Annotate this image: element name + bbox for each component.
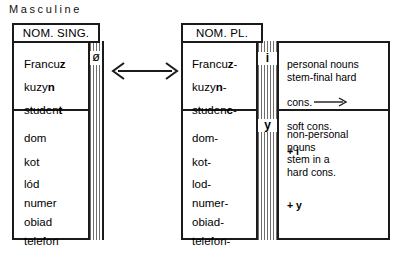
list-item: dom- (192, 133, 218, 145)
list-item: kuzyn (24, 82, 55, 94)
hard-to-soft-rule: cons. (287, 96, 390, 108)
bold-final-letter: n (48, 81, 55, 93)
bold-final-letter: n (216, 81, 223, 93)
list-item: student (24, 105, 62, 117)
list-item: kot (24, 157, 39, 169)
list-item: obiad (24, 217, 52, 229)
plural-personal-ending: i (258, 52, 277, 65)
personal-nouns-note-text: personal nouns stem-final hard (287, 58, 390, 83)
list-item: numer- (192, 198, 228, 210)
bold-final-letter: t (59, 104, 63, 116)
bold-final-letter: z (60, 58, 66, 70)
list-item: dom (24, 133, 46, 145)
list-item: lód (24, 179, 39, 191)
singular-word-list: Francuz kuzyn student dom kot lód numer … (12, 41, 100, 240)
hard-cons-label: cons. (287, 96, 312, 108)
list-item: kuzyn- (192, 82, 227, 94)
list-item: Francuz- (192, 59, 237, 71)
nonpersonal-suffix-label: + y (287, 199, 390, 211)
plural-ending-column: i y (256, 41, 279, 240)
list-item: Francuz (24, 59, 66, 71)
plural-word-list: Francuz- kuzyn- studenc- dom- kot- lod- … (181, 41, 256, 240)
list-item: kot- (192, 157, 211, 169)
list-item: telefon (24, 236, 59, 248)
double-headed-arrow (110, 60, 180, 82)
plural-nonpersonal-ending: y (258, 119, 277, 132)
list-item: obiad- (192, 217, 224, 229)
page-title: Masculine (9, 3, 82, 15)
list-item: studenc- (192, 105, 237, 117)
bold-final-letter: c (227, 104, 233, 116)
zero-ending-symbol: ø (90, 51, 102, 65)
list-item: numer (24, 198, 57, 210)
nom-pl-header: NOM. PL. (181, 23, 263, 43)
double-headed-arrow-icon (110, 60, 180, 82)
bold-final-letter: z (228, 58, 234, 70)
singular-ending-column: ø (88, 41, 104, 240)
nonpersonal-nouns-note-text: non-personal nouns stem in a hard cons. (287, 128, 390, 178)
list-item: lod- (192, 179, 211, 191)
list-item: telefon- (192, 236, 230, 248)
nonpersonal-nouns-note: non-personal nouns stem in a hard cons. … (279, 111, 390, 240)
personal-nouns-note: personal nouns stem-final hard cons. sof… (279, 41, 390, 109)
nom-sing-header: NOM. SING. (12, 23, 100, 43)
right-arrow-icon (314, 97, 348, 106)
